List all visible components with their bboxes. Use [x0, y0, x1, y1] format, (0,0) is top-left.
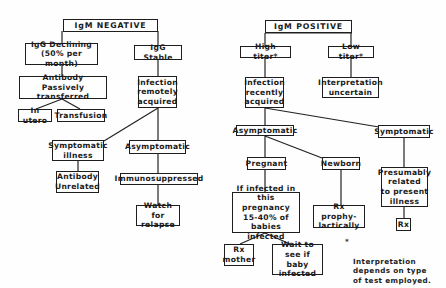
rx-prophylactically-box: Rx prophy- lactically	[313, 205, 365, 228]
infection-remotely-acquired-box: Infection remotely acquired	[138, 76, 177, 108]
antibody-unrelated-box: Antibody Unrelated	[56, 171, 99, 193]
high-titer-box: High titer*	[240, 46, 291, 58]
wait-to-see-box: Wait to see if baby infected	[272, 244, 323, 275]
asymptomatic-box-right: Asymptomatic	[236, 125, 294, 136]
transfusion-box: Transfusion	[57, 109, 105, 122]
igg-declining-box: IgG Declining (50% per month)	[25, 43, 98, 65]
asterisk-marker: *	[345, 237, 349, 246]
igm-negative-box: IgM NEGATIVE	[63, 19, 158, 32]
igm-positive-box: IgM POSITIVE	[265, 20, 352, 33]
infection-recently-acquired-box: Infection recently acquired	[245, 77, 284, 108]
in-utero-box: In utero	[18, 109, 52, 122]
serology-flowchart: IgM NEGATIVE IgG Declining (50% per mont…	[0, 0, 446, 288]
pregnant-box: Pregnant	[247, 157, 286, 170]
immunosuppressed-box: Immunosuppressed	[120, 173, 198, 185]
low-titer-box: Low titer*	[328, 46, 374, 58]
symptomatic-illness-box: Symptomatic illness	[52, 140, 104, 161]
asymptomatic-box-left: Asymptomatic	[129, 140, 186, 154]
igg-stable-box: IgG Stable	[134, 45, 182, 60]
presumably-related-box: Presumably related to present illness	[381, 167, 428, 207]
symptomatic-box-right: Symptomatic	[378, 125, 430, 138]
watch-for-relapse-box: Watch for relapse	[136, 205, 180, 226]
rx-box: Rx	[396, 218, 411, 231]
footnote-text: Interpretation depends on type of test e…	[353, 257, 431, 285]
interpretation-uncertain-box: Interpretation uncertain	[322, 77, 379, 98]
rx-mother-box: Rx mother	[224, 244, 254, 266]
footnote: * Interpretation depends on type of test…	[353, 238, 443, 285]
newborn-box: Newborn	[322, 157, 360, 170]
if-infected-in-pregnancy-box: If infected in this pregnancy 15-40% of …	[232, 192, 300, 233]
antibody-passively-transferred-box: Antibody Passively transferred	[19, 76, 107, 99]
